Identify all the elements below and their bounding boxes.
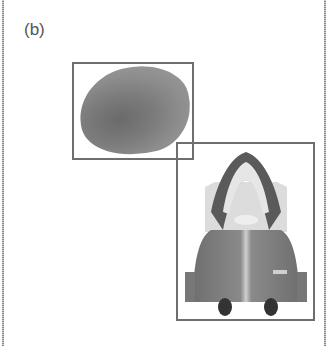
panel-label: (b) [24,20,45,40]
right-border-line [324,0,326,346]
bounding-box-vacuum [176,142,315,321]
left-border-line [2,0,4,346]
